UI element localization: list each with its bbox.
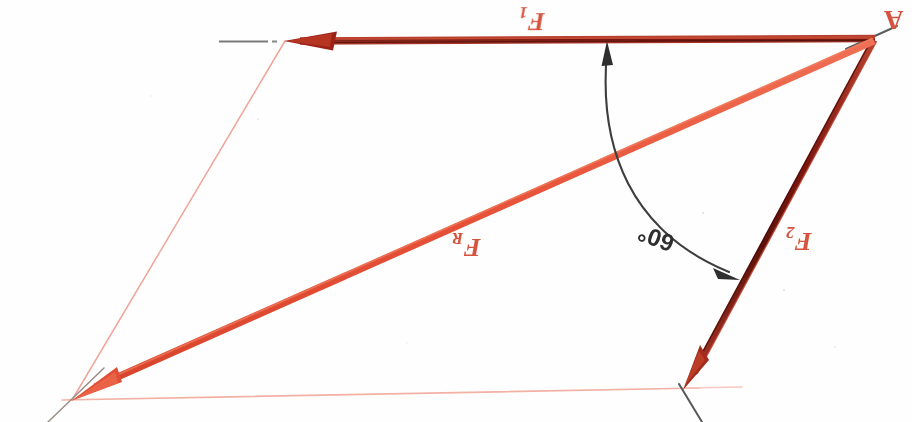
vector-fr-shaft <box>95 41 874 387</box>
vector-label-fr-subscript: R <box>452 229 463 248</box>
construction-parallelogram-bottom <box>62 388 700 400</box>
pencil-corner-cross <box>48 368 104 422</box>
vector-label-f1: F1 <box>519 4 545 34</box>
diagram-canvas: A F1 FR F2 60° <box>0 0 912 422</box>
pencil-f2-axis-extension <box>679 384 702 422</box>
paper-flecks <box>150 95 836 348</box>
vector-label-f1-base: F <box>528 7 545 36</box>
vector-label-fr-base: F <box>463 233 480 262</box>
force-parallelogram-svg <box>0 0 912 422</box>
vector-f2-arrowhead-shade <box>685 351 706 386</box>
construction-baseline-extension <box>683 387 742 388</box>
angle-arc-arrowhead-upper <box>602 41 614 66</box>
vector-f2-highlight <box>697 42 877 375</box>
vector-f2 <box>683 39 877 390</box>
vector-f2-shaft <box>694 40 874 373</box>
vector-label-fr: FR <box>452 230 481 260</box>
construction-lines <box>62 41 742 400</box>
vector-label-f2: F2 <box>786 224 812 254</box>
vector-label-f2-subscript: 2 <box>786 223 795 242</box>
point-label-a: A <box>884 6 904 33</box>
vector-f2-core <box>692 39 872 372</box>
vector-fr-highlight <box>97 39 872 385</box>
vector-f1 <box>284 32 875 51</box>
angle-arc-arrowhead-lower <box>713 268 740 280</box>
vector-fr <box>71 39 874 402</box>
vector-label-f1-subscript: 1 <box>519 3 528 22</box>
vector-label-f2-base: F <box>795 227 812 256</box>
